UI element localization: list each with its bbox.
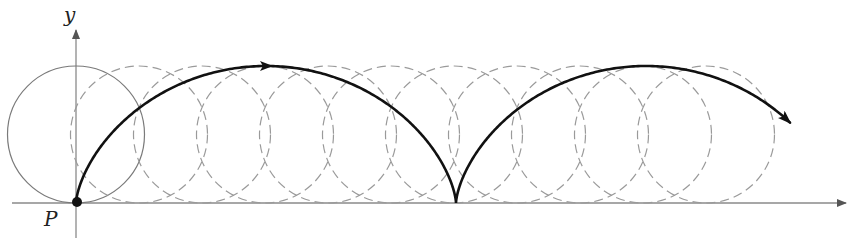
y-axis-label: y [63, 3, 76, 27]
cycloid-curve [76, 66, 790, 203]
rolled-circle-position [449, 66, 586, 203]
rolled-circle-position [575, 66, 712, 203]
rolled-circle-position [197, 66, 334, 203]
point-p [72, 197, 82, 207]
cycloid-diagram: y P [0, 0, 859, 251]
rolled-circle-position [638, 66, 775, 203]
diagram-canvas: y P [0, 0, 859, 251]
rolled-circle-position [71, 66, 208, 203]
rolled-circle-position [512, 66, 649, 203]
rolling-circles [8, 66, 775, 203]
rolled-circle-position [323, 66, 460, 203]
rolled-circle-position [134, 66, 271, 203]
rolled-circle-position [260, 66, 397, 203]
point-p-label: P [43, 207, 58, 231]
rolled-circle-position [386, 66, 523, 203]
